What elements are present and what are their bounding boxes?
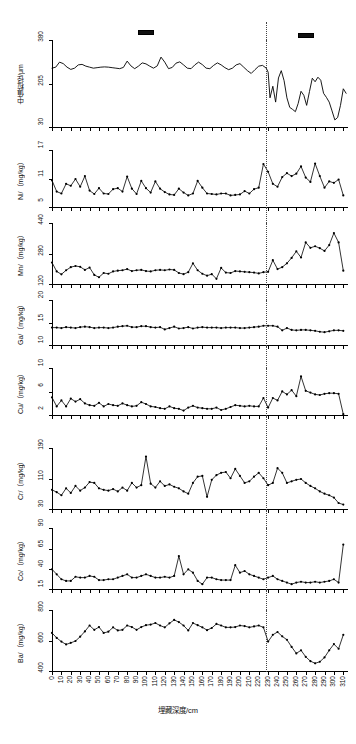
x-tick <box>249 285 250 288</box>
x-tick <box>99 590 100 593</box>
x-tick <box>287 128 288 131</box>
y-tick-label: 11 <box>38 170 45 177</box>
x-tick-label: 180 <box>218 676 225 687</box>
boundary-marker-line <box>266 368 267 416</box>
y-tick-label: 280 <box>38 245 45 256</box>
x-tick <box>306 416 307 419</box>
x-tick <box>99 672 100 675</box>
x-tick <box>118 346 119 349</box>
x-tick <box>90 672 91 675</box>
y-tick-label: 15 <box>38 580 45 587</box>
x-tick <box>221 128 222 131</box>
x-tick <box>90 128 91 131</box>
x-tick <box>212 346 213 349</box>
x-tick <box>334 128 335 131</box>
x-tick <box>240 590 241 593</box>
figure-root: { "figure": { "xaxis_title": "埋藏深度/cm", … <box>0 0 356 744</box>
boundary-marker-line <box>266 528 267 590</box>
x-tick <box>315 672 316 675</box>
x-tick <box>174 208 175 211</box>
x-tick <box>61 346 62 349</box>
x-tick <box>278 510 279 513</box>
x-tick-label: 50 <box>95 676 102 683</box>
x-tick <box>212 208 213 211</box>
y-tick-label: 17 <box>38 141 45 148</box>
x-tick <box>212 128 213 131</box>
x-tick-label: 300 <box>330 676 337 687</box>
x-tick <box>174 590 175 593</box>
x-tick <box>306 346 307 349</box>
x-tick <box>193 208 194 211</box>
x-tick <box>325 510 326 513</box>
x-tick <box>249 208 250 211</box>
x-tick <box>108 672 109 675</box>
x-tick <box>165 346 166 349</box>
y-tick-label: 30 <box>38 118 45 125</box>
boundary-marker-line <box>266 223 267 285</box>
chart-panel: 101520Ga/（mg/kg） <box>0 300 356 346</box>
x-tick <box>108 416 109 419</box>
x-tick <box>287 672 288 675</box>
x-tick <box>315 285 316 288</box>
x-tick <box>343 208 344 211</box>
x-tick <box>52 208 53 211</box>
data-series <box>52 368 348 416</box>
y-tick-label: 120 <box>38 275 45 286</box>
x-tick <box>99 285 100 288</box>
x-tick <box>212 416 213 419</box>
data-series <box>52 528 348 590</box>
x-tick <box>165 416 166 419</box>
x-tick-label: 190 <box>227 676 234 687</box>
x-tick <box>71 128 72 131</box>
x-tick <box>174 128 175 131</box>
x-tick <box>118 510 119 513</box>
x-tick <box>137 285 138 288</box>
x-axis-title: 埋藏深度/cm <box>0 704 356 715</box>
x-tick <box>165 510 166 513</box>
data-series <box>52 300 348 346</box>
x-tick <box>231 128 232 131</box>
chart-panel: 51117Ni/（mg/kg） <box>0 150 356 208</box>
x-tick <box>212 510 213 513</box>
x-tick <box>90 346 91 349</box>
x-tick-label: 140 <box>180 676 187 687</box>
x-tick <box>146 128 147 131</box>
x-tick <box>268 416 269 419</box>
x-tick <box>240 346 241 349</box>
x-tick <box>240 672 241 675</box>
x-tick <box>118 672 119 675</box>
x-tick <box>137 590 138 593</box>
chart-panel: 400600800Ba/（mg/kg） <box>0 610 356 672</box>
x-tick <box>221 510 222 513</box>
x-tick-label: 0 <box>49 676 56 680</box>
x-tick <box>240 128 241 131</box>
x-tick <box>268 285 269 288</box>
y-tick-label: 440 <box>38 214 45 225</box>
x-tick <box>240 416 241 419</box>
x-tick <box>278 285 279 288</box>
x-tick <box>278 672 279 675</box>
x-tick <box>108 128 109 131</box>
y-tick-label: 6 <box>38 383 45 387</box>
x-tick <box>108 285 109 288</box>
x-tick <box>278 416 279 419</box>
x-tick <box>240 510 241 513</box>
x-tick <box>99 346 100 349</box>
x-tick <box>259 128 260 131</box>
x-tick <box>146 285 147 288</box>
x-tick <box>80 208 81 211</box>
x-tick <box>165 672 166 675</box>
y-axis-title: Mn/（mg/kg） <box>16 223 26 285</box>
x-tick <box>52 590 53 593</box>
x-tick-label: 290 <box>321 676 328 687</box>
boundary-marker-line-top <box>266 22 267 40</box>
x-tick-label: 170 <box>208 676 215 687</box>
x-tick <box>287 285 288 288</box>
x-tick <box>259 285 260 288</box>
x-tick-label: 250 <box>283 676 290 687</box>
data-series <box>52 223 348 285</box>
x-tick <box>118 285 119 288</box>
x-tick <box>334 208 335 211</box>
x-tick <box>249 346 250 349</box>
y-axis-title: Ga/（mg/kg） <box>16 300 26 346</box>
